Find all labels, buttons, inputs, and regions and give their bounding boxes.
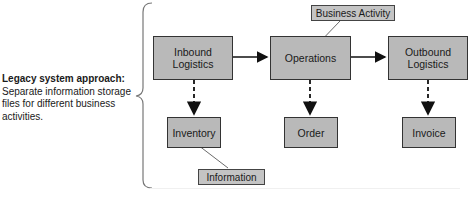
box-label: Inbound (174, 46, 212, 58)
box-label: Invoice (412, 127, 445, 139)
storage-inventory: Inventory (167, 117, 221, 148)
bottom-rule (150, 188, 460, 189)
storage-invoice: Invoice (402, 117, 456, 148)
activity-outbound-logistics: OutboundLogistics (388, 36, 468, 80)
box-label: Logistics (408, 58, 449, 70)
activity-inbound-logistics: InboundLogistics (153, 36, 233, 80)
diagram-connectors (0, 0, 474, 224)
business-activity-callout: Business Activity (311, 5, 395, 21)
box-label: Logistics (173, 58, 214, 70)
storage-order: Order (284, 117, 338, 148)
information-callout: Information (198, 169, 265, 185)
activity-operations: Operations (270, 36, 351, 80)
box-label: Outbound (405, 46, 451, 58)
curly-brace (136, 3, 152, 188)
box-label: Order (298, 127, 325, 139)
box-label: Inventory (172, 127, 215, 139)
box-label: Operations (285, 52, 336, 64)
